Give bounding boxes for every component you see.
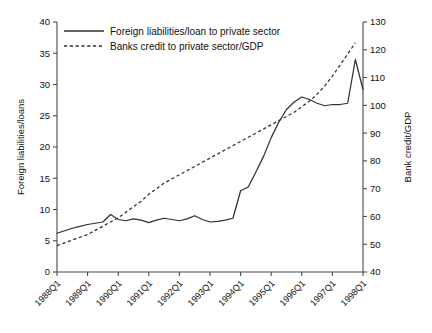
- left-axis-ticks: 0510152025303540: [39, 16, 57, 277]
- legend-label-foreign-liabilities: Foreign liabilities/loan to private sect…: [110, 26, 281, 37]
- x-tick-label: 1991Q1: [124, 278, 154, 308]
- legend: Foreign liabilities/loan to private sect…: [64, 26, 281, 52]
- right-axis-ticks: 405060708090100110120130: [363, 16, 386, 277]
- right-tick-label: 40: [370, 266, 381, 277]
- left-tick-label: 35: [39, 48, 50, 59]
- left-tick-label: 20: [39, 141, 50, 152]
- x-tick-label: 1988Q1: [33, 278, 63, 308]
- right-tick-label: 80: [370, 155, 381, 166]
- x-tick-label: 1992Q1: [155, 278, 185, 308]
- x-tick-label: 1996Q1: [277, 278, 307, 308]
- x-axis-ticks: 1988Q11989Q11990Q11991Q11992Q11993Q11994…: [33, 272, 369, 308]
- series-line-foreign-liabilities: [57, 60, 363, 234]
- left-axis-title: Foreign liabilities/loans: [15, 99, 26, 195]
- right-tick-label: 100: [370, 100, 386, 111]
- x-tick-label: 1997Q1: [308, 278, 338, 308]
- right-tick-label: 70: [370, 183, 381, 194]
- x-tick-label: 1989Q1: [63, 278, 93, 308]
- right-tick-label: 130: [370, 16, 386, 27]
- right-tick-label: 110: [370, 72, 385, 83]
- right-tick-label: 120: [370, 44, 386, 55]
- right-axis-title: Bank credit/GDP: [402, 112, 413, 183]
- left-tick-label: 40: [39, 16, 50, 27]
- left-tick-label: 5: [45, 235, 50, 246]
- x-tick-label: 1990Q1: [94, 278, 124, 308]
- x-tick-label: 1998Q1: [339, 278, 369, 308]
- left-tick-label: 30: [39, 79, 50, 90]
- dual-axis-line-chart: 0510152025303540 40506070809010011012013…: [0, 0, 432, 333]
- legend-label-bank-credit: Banks credit to private sector/GDP: [110, 41, 264, 52]
- x-tick-label: 1994Q1: [216, 278, 246, 308]
- series-line-bank-credit: [57, 43, 355, 246]
- left-tick-label: 0: [45, 266, 50, 277]
- chart-container: 0510152025303540 40506070809010011012013…: [0, 0, 432, 333]
- right-tick-label: 60: [370, 211, 381, 222]
- right-tick-label: 50: [370, 239, 381, 250]
- plot-frame: [57, 22, 363, 272]
- right-tick-label: 90: [370, 128, 381, 139]
- left-tick-label: 25: [39, 110, 50, 121]
- left-tick-label: 15: [39, 173, 50, 184]
- left-tick-label: 10: [39, 204, 50, 215]
- x-tick-label: 1993Q1: [186, 278, 216, 308]
- x-tick-label: 1995Q1: [247, 278, 277, 308]
